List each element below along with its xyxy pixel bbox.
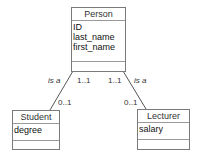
attribute-degree: degree — [14, 125, 59, 135]
attribute-first-name: first_name — [73, 42, 125, 52]
class-lecturer-name: Lecturer — [138, 110, 189, 123]
class-person-attributes: ID last_name first_name — [72, 21, 125, 62]
class-person[interactable]: Person ID last_name first_name — [71, 7, 126, 72]
attribute-salary: salary — [139, 124, 189, 134]
class-student-operations — [13, 141, 59, 151]
attribute-id: ID — [73, 22, 125, 32]
multiplicity-student: 0..1 — [58, 98, 71, 107]
class-student-name: Student — [13, 111, 59, 124]
class-lecturer[interactable]: Lecturer salary — [137, 109, 190, 150]
association-label-lecturer: is a — [134, 76, 146, 85]
class-student-attributes: degree — [13, 124, 59, 141]
class-person-operations — [72, 62, 125, 72]
attribute-last-name: last_name — [73, 32, 125, 42]
association-label-student: is a — [48, 76, 60, 85]
class-lecturer-attributes: salary — [138, 123, 189, 140]
multiplicity-lecturer: 0..1 — [124, 98, 137, 107]
multiplicity-person-student: 1..1 — [77, 76, 90, 85]
class-person-name: Person — [72, 8, 125, 21]
class-student[interactable]: Student degree — [12, 110, 60, 150]
class-lecturer-operations — [138, 140, 189, 150]
multiplicity-person-lecturer: 1..1 — [108, 76, 121, 85]
